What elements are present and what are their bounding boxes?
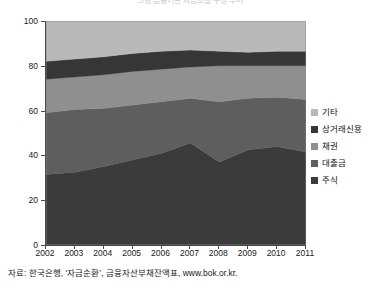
- y-tick-label: 60: [12, 107, 38, 116]
- legend-swatch-icon: [311, 177, 318, 184]
- y-tick-label: 100: [12, 17, 38, 26]
- y-tick-label: 20: [12, 196, 38, 205]
- legend-item-주식[interactable]: 주식: [311, 172, 377, 189]
- legend-swatch-icon: [311, 160, 318, 167]
- legend-swatch-icon: [311, 143, 318, 150]
- y-tick-label: 80: [12, 62, 38, 71]
- chart-figure: 그림 금융기관 자금조달 구성 추이 100806040200 20022003…: [0, 0, 380, 290]
- plot-area: [45, 21, 306, 246]
- legend-swatch-icon: [311, 126, 318, 133]
- y-tick-label: 40: [12, 151, 38, 160]
- stacked-area-plot: [46, 21, 306, 245]
- legend-item-label: 기타: [322, 108, 338, 117]
- legend-item-label: 상거래신용: [322, 125, 362, 134]
- legend-item-label: 주식: [322, 176, 338, 185]
- legend-item-채권[interactable]: 채권: [311, 138, 377, 155]
- source-note: 자료: 한국은행, ‘자금순환’, 금융자산부채잔액표, www.bok.or.…: [8, 268, 237, 279]
- legend-item-대출금[interactable]: 대출금: [311, 155, 377, 172]
- chart-title: 그림 금융기관 자금조달 구성 추이: [0, 0, 380, 5]
- x-tick-label: 2011: [288, 249, 322, 258]
- chart-legend: 기타상거래신용채권대출금주식: [311, 104, 377, 189]
- legend-item-label: 채권: [322, 142, 338, 151]
- legend-item-상거래신용[interactable]: 상거래신용: [311, 121, 377, 138]
- legend-item-label: 대출금: [322, 159, 346, 168]
- legend-item-기타[interactable]: 기타: [311, 104, 377, 121]
- legend-swatch-icon: [311, 109, 318, 116]
